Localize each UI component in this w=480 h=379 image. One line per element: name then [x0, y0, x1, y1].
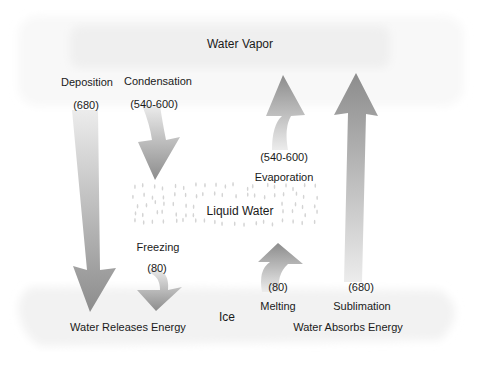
vapor-label: Water Vapor: [207, 37, 273, 51]
droplet: [282, 209, 284, 213]
droplet: [267, 183, 269, 187]
freezing-label: Freezing: [137, 241, 180, 253]
droplet: [281, 202, 283, 206]
droplet: [161, 210, 163, 214]
droplet: [283, 192, 285, 196]
droplet: [247, 187, 249, 191]
droplet: [221, 193, 223, 197]
droplet: [256, 221, 258, 225]
droplet: [274, 193, 276, 197]
droplet: [285, 183, 287, 187]
droplet: [304, 213, 306, 217]
droplet: [295, 202, 297, 206]
melting-value: (80): [268, 281, 288, 293]
droplet: [134, 185, 136, 189]
droplet: [243, 222, 245, 226]
droplet: [155, 200, 157, 204]
droplet: [162, 186, 164, 190]
droplet: [175, 212, 177, 216]
droplet: [176, 218, 178, 222]
droplet: [254, 193, 256, 197]
droplet: [292, 209, 294, 213]
droplet: [221, 222, 223, 226]
droplet: [232, 182, 234, 186]
droplet: [174, 192, 176, 196]
droplet: [195, 218, 197, 222]
droplet: [303, 195, 305, 199]
droplet: [263, 220, 265, 224]
melting-label: Melting: [260, 300, 295, 312]
droplet: [132, 195, 134, 199]
droplet: [163, 219, 165, 223]
droplet: [316, 196, 318, 200]
droplet: [247, 192, 249, 196]
droplet: [225, 184, 227, 188]
droplet: [185, 213, 187, 217]
droplet: [204, 218, 206, 222]
releases-energy-label: Water Releases Energy: [70, 321, 186, 333]
droplet: [302, 205, 304, 209]
droplet: [292, 187, 294, 191]
droplet: [234, 221, 236, 225]
droplet: [142, 213, 144, 217]
droplet: [215, 183, 217, 187]
droplet: [214, 220, 216, 224]
droplet: [185, 203, 187, 207]
condensation-arrow: [138, 105, 180, 180]
droplet: [196, 194, 198, 198]
droplet: [214, 191, 216, 195]
liquid-label: Liquid Water: [207, 204, 274, 218]
droplet: [142, 183, 144, 187]
droplet: [282, 218, 284, 222]
droplet: [193, 213, 195, 217]
droplet: [296, 191, 298, 195]
droplet: [163, 202, 165, 206]
droplet: [252, 184, 254, 188]
droplet: [134, 218, 136, 222]
deposition-value: (680): [73, 99, 99, 111]
ice-band: [18, 287, 455, 346]
freezing-value: (80): [147, 262, 167, 274]
droplet: [152, 195, 154, 199]
droplet: [175, 184, 177, 188]
droplet: [274, 185, 276, 189]
absorbs-energy-label: Water Absorbs Energy: [293, 321, 403, 333]
droplet: [272, 222, 274, 226]
droplet: [157, 210, 159, 214]
droplet: [152, 220, 154, 224]
sublimation-arrow: [334, 73, 378, 282]
evaporation-value: (540-600): [260, 151, 308, 163]
deposition-label: Deposition: [61, 76, 113, 88]
droplet: [264, 195, 266, 199]
droplet: [185, 193, 187, 197]
droplet: [195, 182, 197, 186]
droplet: [304, 183, 306, 187]
droplet: [202, 192, 204, 196]
droplet: [146, 203, 148, 207]
condensation-value: (540-600): [130, 98, 178, 110]
ice-label: Ice: [219, 310, 235, 324]
evaporation-label: Evaporation: [255, 171, 314, 183]
droplet: [301, 221, 303, 225]
droplet: [135, 211, 137, 215]
droplet: [314, 183, 316, 187]
droplet: [143, 193, 145, 197]
droplet: [314, 220, 316, 224]
droplet: [235, 194, 237, 198]
condensation-label: Condensation: [124, 75, 192, 87]
droplet: [193, 205, 195, 209]
sublimation-label: Sublimation: [333, 300, 390, 312]
droplet: [137, 204, 139, 208]
droplet: [163, 195, 165, 199]
droplet: [143, 220, 145, 224]
sublimation-value: (680): [348, 281, 374, 293]
droplet: [316, 210, 318, 214]
droplet: [172, 202, 174, 206]
droplet: [182, 218, 184, 222]
droplet: [292, 219, 294, 223]
droplet: [314, 204, 316, 208]
droplet: [154, 184, 156, 188]
deposition-arrow: [72, 110, 116, 312]
droplet: [204, 183, 206, 187]
droplet: [183, 186, 185, 190]
